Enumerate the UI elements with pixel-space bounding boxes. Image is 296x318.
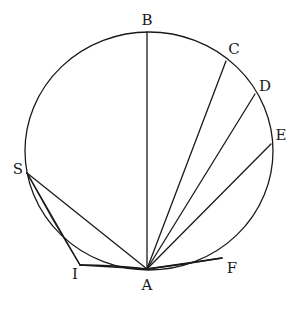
inner-arcs-group <box>27 173 222 269</box>
chord-AE <box>147 144 271 269</box>
circle-chords-diagram: A B C D E F I S <box>0 0 296 318</box>
label-A: A <box>141 276 153 294</box>
label-I: I <box>72 265 78 283</box>
chord-AC <box>147 61 226 269</box>
label-S: S <box>13 160 23 178</box>
arc-AF <box>147 258 222 269</box>
label-D: D <box>259 77 271 95</box>
label-B: B <box>141 11 152 29</box>
chords-group <box>27 32 271 269</box>
point-labels-group: A B C D E F I S <box>13 11 287 294</box>
chord-AD <box>147 94 255 269</box>
label-F: F <box>227 259 237 277</box>
label-E: E <box>276 126 287 144</box>
label-C: C <box>228 40 239 58</box>
